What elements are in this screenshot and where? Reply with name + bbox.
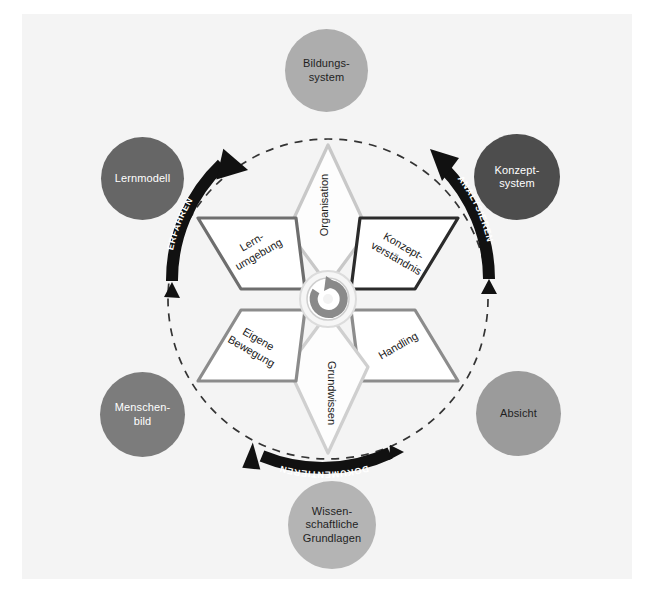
petal-grundwissen-label: Grundwissen	[326, 361, 338, 425]
petal-konzeptverstaendnis[interactable]: Konzept- verständnis	[351, 218, 458, 289]
petal-eigene-bewegung[interactable]: Eigene Bewegung	[198, 310, 305, 381]
diagram-svg: ERFAHREN ANALYSIEREN DOKUMENTIEREN Organ…	[0, 0, 655, 597]
process-arrow-analysieren-label: ANALYSIEREN	[456, 174, 495, 243]
arrow-tail	[389, 445, 404, 460]
arrow-tail	[481, 279, 497, 294]
center-hub[interactable]	[300, 271, 356, 327]
petal-lernumgebung[interactable]: Lern- umgebung	[198, 218, 305, 289]
petal-organisation-label: Organisation	[318, 174, 330, 236]
process-arrow-dokumentieren[interactable]: DOKUMENTIEREN	[242, 441, 404, 479]
diagram-canvas: Bildungs- system Lernmodell Konzept- sys…	[0, 0, 655, 597]
arrow-tail	[164, 282, 180, 298]
